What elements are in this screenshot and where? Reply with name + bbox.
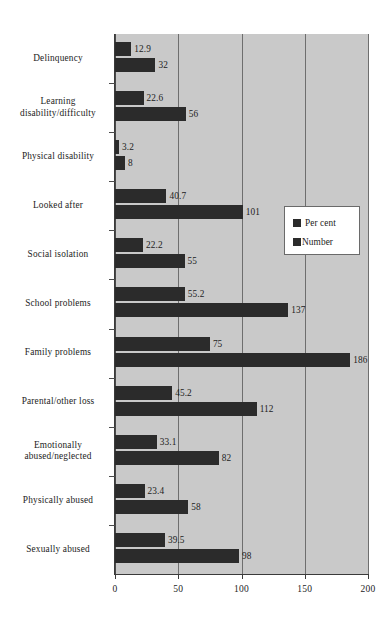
legend-entry-per-cent: Per cent: [293, 217, 336, 229]
bar-value-label: 45.2: [175, 386, 192, 400]
bar-value-label: 23.4: [148, 484, 165, 498]
category-row: Delinquency12.932: [0, 34, 391, 83]
bar-number: [115, 451, 219, 465]
category-label: Emotionallyabused/neglected: [4, 440, 112, 463]
category-label-line: abused/neglected: [4, 451, 112, 463]
category-label: Social isolation: [4, 249, 112, 261]
bar-per-cent: [115, 337, 210, 351]
legend-swatch-number-icon: [293, 238, 301, 246]
category-label-line: Delinquency: [4, 53, 112, 65]
bar-number: [115, 549, 239, 563]
x-axis-tick-label: 100: [234, 584, 249, 594]
bar-per-cent: [115, 238, 143, 252]
bar-value-label: 112: [260, 402, 274, 416]
category-row: School problems55.2137: [0, 279, 391, 328]
bar-per-cent: [115, 386, 172, 400]
bar-per-cent: [115, 42, 131, 56]
category-label: Physically abused: [4, 495, 112, 507]
category-label: Learningdisability/difficulty: [4, 96, 112, 119]
category-row: Family problems75186: [0, 329, 391, 378]
bar-value-label: 82: [222, 451, 232, 465]
legend-entry-number: Number: [293, 236, 333, 248]
bar-value-label: 55.2: [188, 287, 205, 301]
category-label: Parental/other loss: [4, 396, 112, 408]
bar-per-cent: [115, 140, 119, 154]
bar-number: [115, 107, 186, 121]
bar-value-label: 3.2: [122, 140, 134, 154]
x-axis-tick: [115, 574, 116, 579]
bar-value-label: 33.1: [160, 435, 177, 449]
legend-label-number: Number: [302, 237, 333, 247]
bar-value-label: 55: [188, 254, 198, 268]
x-axis-tick-label: 150: [297, 584, 312, 594]
category-row: Sexually abused39.598: [0, 525, 391, 574]
category-label: School problems: [4, 298, 112, 310]
bar-number: [115, 500, 188, 514]
bar-value-label: 56: [189, 107, 199, 121]
bar-number: [115, 303, 288, 317]
bar-value-label: 32: [158, 58, 168, 72]
bar-value-label: 8: [128, 156, 133, 170]
x-axis-tick: [305, 574, 306, 579]
category-label-line: School problems: [4, 298, 112, 310]
bar-number: [115, 156, 125, 170]
category-row: Learningdisability/difficulty22.656: [0, 83, 391, 132]
bar-chart: Delinquency12.932Learningdisability/diff…: [0, 0, 391, 630]
x-axis-tick-label: 0: [112, 584, 117, 594]
bar-per-cent: [115, 189, 166, 203]
category-label-line: disability/difficulty: [4, 108, 112, 120]
bar-value-label: 22.2: [146, 238, 163, 252]
bar-number: [115, 58, 155, 72]
bar-value-label: 186: [353, 353, 367, 367]
legend-swatch-per-cent-icon: [293, 219, 301, 227]
bar-value-label: 137: [291, 303, 305, 317]
bar-per-cent: [115, 533, 165, 547]
category-label-line: Social isolation: [4, 249, 112, 261]
legend-label-per-cent: Per cent: [305, 218, 336, 228]
bar-number: [115, 205, 243, 219]
category-label: Family problems: [4, 347, 112, 359]
category-row: Emotionallyabused/neglected33.182: [0, 427, 391, 476]
x-axis-tick: [178, 574, 179, 579]
bar-value-label: 40.7: [169, 189, 186, 203]
category-row: Physically abused23.458: [0, 476, 391, 525]
category-label: Delinquency: [4, 53, 112, 65]
category-label: Physical disability: [4, 151, 112, 163]
x-axis-tick-label: 50: [173, 584, 183, 594]
bar-value-label: 101: [246, 205, 260, 219]
category-label-line: Looked after: [4, 200, 112, 212]
chart-legend: Per cent Number: [284, 206, 360, 255]
x-axis-tick: [242, 574, 243, 579]
category-label: Sexually abused: [4, 544, 112, 556]
category-label-line: Family problems: [4, 347, 112, 359]
category-label-line: Sexually abused: [4, 544, 112, 556]
bar-value-label: 12.9: [134, 42, 151, 56]
bar-value-label: 58: [191, 500, 201, 514]
category-row: Physical disability3.28: [0, 132, 391, 181]
bar-value-label: 75: [213, 337, 223, 351]
bar-value-label: 39.5: [168, 533, 185, 547]
x-axis-tick-label: 200: [360, 584, 375, 594]
category-label: Looked after: [4, 200, 112, 212]
x-axis-tick: [368, 574, 369, 579]
category-label-line: Learning: [4, 96, 112, 108]
bar-per-cent: [115, 287, 185, 301]
bar-per-cent: [115, 435, 157, 449]
bar-number: [115, 353, 350, 367]
category-label-line: Parental/other loss: [4, 396, 112, 408]
category-row: Parental/other loss45.2112: [0, 378, 391, 427]
bar-number: [115, 402, 257, 416]
bar-value-label: 22.6: [147, 91, 164, 105]
bar-per-cent: [115, 484, 145, 498]
category-label-line: Physical disability: [4, 151, 112, 163]
bar-value-label: 98: [242, 549, 252, 563]
bar-number: [115, 254, 185, 268]
category-label-line: Physically abused: [4, 495, 112, 507]
category-label-line: Emotionally: [4, 440, 112, 452]
bar-per-cent: [115, 91, 144, 105]
